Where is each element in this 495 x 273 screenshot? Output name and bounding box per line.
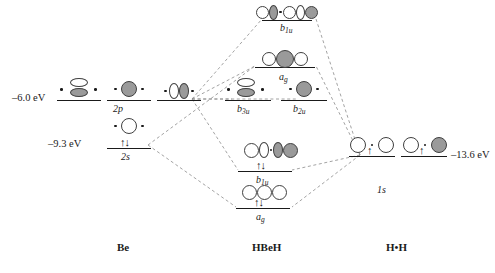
nucleus-dot <box>60 88 63 91</box>
level-h-1s-a <box>349 156 395 157</box>
orbital-label-1s: 1s <box>377 185 386 195</box>
orbital-label-2s: 2s <box>121 152 130 162</box>
energy-label-93eV: –9.3 eV <box>48 139 81 150</box>
level-h-1s-b <box>401 156 447 157</box>
level-be-2s <box>107 148 151 149</box>
level-hbeh-b1u-antibonding <box>262 20 312 21</box>
orbital-icon-b1u-antibonding <box>242 5 332 19</box>
orbital-icon-ag-antibonding <box>249 51 321 67</box>
mo-correlation-diagram: –6.0 eV 2p –9.3 eV ↑↓ 2s Be b <box>0 0 495 273</box>
level-hbeh-b2u <box>281 100 327 101</box>
energy-label-6eV: –6.0 eV <box>12 93 45 104</box>
orbital-icon-2pz-be <box>67 78 91 97</box>
spin-arrows-hbeh-b1u: ↑↓ <box>256 160 265 171</box>
species-label-hh: H•H <box>386 242 407 253</box>
nucleus-dot <box>94 88 97 91</box>
nucleus-dot <box>261 88 264 91</box>
level-hbeh-b3u <box>225 100 271 101</box>
orbital-icon-h1s-b <box>396 136 454 154</box>
orbital-icon-h1s-a <box>343 136 401 154</box>
species-label-hbeh: HBeH <box>252 242 281 253</box>
energy-label-136eV: –13.6 eV <box>451 150 490 161</box>
orbital-label-b2u: b2u <box>293 104 306 115</box>
orbital-label-2p: 2p <box>113 104 123 114</box>
orbital-label-ag-bonding: ag <box>256 212 265 223</box>
spin-arrows-be-2s: ↑↓ <box>120 137 129 148</box>
orbital-icon-2px-be <box>155 83 203 99</box>
orbital-label-b3u: b3u <box>237 104 250 115</box>
orbital-icon-2s-be <box>110 117 148 135</box>
orbital-icon-2p-be-b <box>110 80 148 98</box>
nucleus-dot <box>227 88 230 91</box>
orbital-icon-b2u-py <box>285 80 323 98</box>
orbital-icon-b3u-pz <box>234 78 258 97</box>
level-be-2p-c <box>157 100 201 101</box>
level-be-2p-b <box>107 100 151 101</box>
level-hbeh-ag-bonding <box>236 208 290 209</box>
species-label-be: Be <box>117 242 129 253</box>
orbital-label-b1u-antibonding: b1u <box>280 23 293 34</box>
orbital-icon-ag-bonding <box>240 184 288 200</box>
level-be-2p-a <box>57 100 101 101</box>
level-hbeh-b1u-bonding <box>238 171 292 172</box>
orbital-icon-b1u-bonding <box>235 142 307 158</box>
